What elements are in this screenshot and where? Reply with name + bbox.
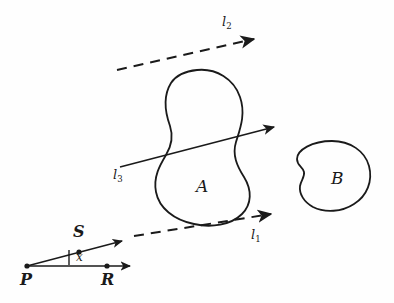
line-label-l3-subscript: 3 — [117, 174, 122, 184]
figure-canvas — [0, 0, 394, 303]
line-label-l2: l2 — [222, 15, 232, 28]
line-label-l1: l1 — [251, 228, 261, 241]
region-a-outline — [155, 70, 249, 226]
point-label-r: R — [101, 272, 114, 288]
point-dot-p — [24, 263, 29, 268]
line-l3 — [120, 127, 274, 167]
angle-label-x: x — [76, 251, 83, 263]
line-label-l2-subscript: 2 — [226, 21, 231, 31]
point-label-s: S — [73, 224, 85, 240]
region-label-a: A — [196, 178, 208, 195]
line-label-l3: l3 — [113, 168, 123, 181]
geometry-figure: A B l1 l2 l3 P S R x — [0, 0, 394, 303]
line-label-l1-subscript: 1 — [255, 234, 260, 244]
point-dot-r — [104, 263, 109, 268]
line-l2 — [117, 39, 254, 70]
point-label-p: P — [20, 272, 32, 288]
region-label-b: B — [331, 170, 344, 187]
ray-ps — [27, 241, 122, 266]
